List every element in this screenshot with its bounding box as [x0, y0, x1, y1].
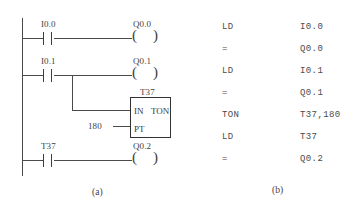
caption-ladder: (a) — [92, 187, 103, 198]
instruction-row: LD I0.1 — [200, 66, 357, 88]
instruction-operand: T37,180 — [300, 110, 341, 121]
coil-q0-1: ( ) — [132, 68, 158, 83]
preset-value-wire — [113, 126, 130, 127]
plc-ladder-figure: I0.0 ( ) Q0.0 I0.1 ( ) Q0.1 — [0, 0, 357, 208]
instruction-mnemonic: = — [222, 154, 228, 165]
contact-i0-1-label: I0.1 — [41, 56, 56, 66]
instruction-mnemonic: LD — [222, 132, 234, 143]
timer-pt-pin-label: PT — [134, 124, 145, 134]
coil-q0-0: ( ) — [132, 31, 158, 46]
rung-1-wire-left — [22, 38, 43, 39]
instruction-row: TON T37,180 — [200, 110, 357, 132]
coil-q0-1-label: Q0.1 — [133, 56, 151, 66]
timer-box-outline: IN TON PT — [130, 97, 171, 138]
instruction-mnemonic: = — [222, 88, 228, 99]
instruction-mnemonic: LD — [222, 66, 234, 77]
caption-instruction-list: (b) — [272, 185, 283, 196]
contact-i0-0 — [43, 32, 54, 45]
instruction-operand: T37 — [300, 132, 317, 143]
instruction-row: LD T37 — [200, 132, 357, 154]
coil-q0-0-label: Q0.0 — [133, 19, 151, 29]
instruction-row: = Q0.0 — [200, 44, 357, 66]
contact-t37 — [43, 154, 54, 167]
contact-t37-label: T37 — [41, 141, 56, 151]
timer-in-pin-label: IN — [134, 106, 144, 116]
branch-to-timer-in-wire — [72, 110, 130, 111]
timer-name-label: T37 — [140, 87, 155, 97]
instruction-mnemonic: = — [222, 44, 228, 55]
instruction-operand: Q0.0 — [300, 44, 323, 55]
instruction-operand: Q0.1 — [300, 88, 323, 99]
coil-q0-2-label: Q0.2 — [133, 141, 151, 151]
instruction-row: LD I0.0 — [200, 22, 357, 44]
rung-2-wire-left — [22, 75, 43, 76]
rung-3-wire-left — [22, 160, 43, 161]
instruction-operand: I0.0 — [300, 22, 323, 33]
timer-type-label: TON — [151, 106, 169, 116]
instruction-operand: I0.1 — [300, 66, 323, 77]
instruction-row: = Q0.1 — [200, 88, 357, 110]
branch-drop-wire — [72, 75, 73, 110]
contact-i0-0-label: I0.0 — [41, 19, 56, 29]
rung-1-wire-right — [54, 38, 132, 39]
instruction-list: LD I0.0 = Q0.0 LD I0.1 = Q0.1 TON T37,18… — [200, 22, 357, 176]
contact-i0-1 — [43, 69, 54, 82]
instruction-mnemonic: LD — [222, 22, 234, 33]
rung-3-wire-right — [54, 160, 132, 161]
instruction-mnemonic: TON — [222, 110, 239, 121]
preset-value-label: 180 — [88, 121, 102, 131]
instruction-operand: Q0.2 — [300, 154, 323, 165]
left-power-rail — [22, 18, 23, 176]
coil-q0-2: ( ) — [132, 153, 158, 168]
rung-2-wire-right — [54, 75, 132, 76]
instruction-row: = Q0.2 — [200, 154, 357, 176]
